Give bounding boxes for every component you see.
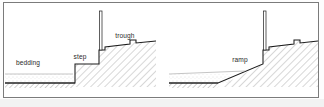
base-band-left: [5, 83, 75, 88]
bottom-strip: [0, 99, 324, 107]
right-panel: [169, 11, 318, 88]
post-left: [100, 11, 102, 50]
label-bedding: bedding: [16, 59, 40, 67]
embankment-fill-right: [218, 40, 318, 87]
bedding-surface-line-right: [169, 71, 245, 74]
label-ramp: ramp: [232, 56, 248, 64]
bedding-layer: [5, 74, 75, 83]
figure-drawing: bedding step trough ramp: [0, 0, 324, 107]
label-step: step: [74, 53, 87, 61]
figure-root: bedding step trough ramp: [0, 0, 324, 107]
base-band-right: [169, 83, 218, 88]
label-trough: trough: [115, 32, 135, 40]
left-panel: [5, 11, 156, 88]
post-right: [264, 11, 266, 50]
